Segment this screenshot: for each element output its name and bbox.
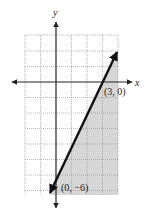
point-label-x-intercept: (3, 0)	[104, 86, 126, 98]
graph: x y (3, 0) (0, −6)	[0, 0, 148, 214]
x-axis-label: x	[134, 77, 140, 88]
point-label-y-intercept: (0, −6)	[61, 182, 88, 194]
y-axis-label: y	[52, 7, 58, 18]
